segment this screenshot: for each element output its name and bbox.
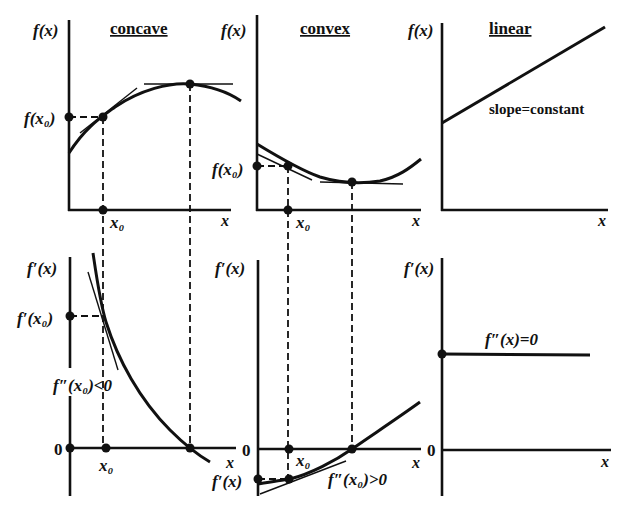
concave-peak-dot: [186, 80, 195, 89]
linear-top-ylabel: f(x): [408, 21, 433, 40]
convex-bottom-point-dot: [285, 475, 294, 484]
convex-fpx0-dot: [254, 475, 263, 484]
concave-bottom-fpx0-label: f′(x₀): [17, 309, 53, 328]
concave-title: concave: [110, 19, 168, 38]
concave-x0-dot: [99, 206, 108, 215]
convex-title: convex: [300, 19, 351, 38]
linear-slope-annotation: slope=constant: [489, 101, 584, 117]
concave-bottom-panel: f′(x) f′(x₀) f″(x₀)<0 0 x₀ x: [17, 253, 236, 496]
concave-root-dot: [186, 444, 195, 453]
linear-top-xlabel: x: [597, 212, 606, 229]
convex-fx0-dot: [253, 162, 262, 171]
linear-bottom-ylabel: f′(x): [404, 259, 434, 278]
convex-bottom-x0-dot: [285, 445, 294, 454]
concave-second-derivative-annotation: f″(x₀)<0: [53, 376, 112, 395]
concave-derivative-curve: [93, 253, 210, 462]
concave-zero-dot: [66, 444, 75, 453]
convex-bottom-ylabel: f′(x): [215, 259, 245, 278]
convex-top-x0-label: x₀: [295, 213, 311, 232]
concave-bottom-x0-dot: [102, 444, 111, 453]
convex-bottom-xlabel: x: [411, 454, 420, 471]
linear-top-panel: f(x) linear slope=constant x: [408, 19, 608, 229]
linear-second-derivative-annotation: f″(x)=0: [485, 330, 539, 349]
linear-bottom-zero-label: 0: [427, 441, 436, 460]
concave-bottom-xlabel: x: [225, 454, 234, 471]
convex-min-dot: [348, 178, 357, 187]
calculus-diagram: f(x) concave f(x₀) x₀ x f(x) convex f(x₀…: [0, 0, 626, 508]
concave-fpx0-dot: [66, 312, 75, 321]
convex-second-derivative-annotation: f″(x₀)>0: [328, 470, 387, 489]
convex-bottom-panel: f′(x) 0 f′(x) x₀ f″(x₀)>0 x: [212, 259, 421, 496]
concave-top-fx0-label: f(x₀): [24, 109, 55, 128]
concave-point-dot: [99, 113, 108, 122]
concave-bottom-zero-label: 0: [54, 440, 63, 459]
convex-top-fx0-label: f(x₀): [212, 160, 243, 179]
convex-root-dot: [348, 445, 357, 454]
convex-bottom-zero-label: 0: [242, 441, 251, 460]
convex-point-dot: [284, 162, 293, 171]
convex-top-panel: f(x) convex f(x₀) x₀ x: [212, 15, 421, 479]
linear-derivative-dot: [438, 350, 447, 359]
linear-title: linear: [489, 19, 532, 38]
linear-derivative-line: [442, 354, 590, 355]
concave-fx0-dot: [65, 113, 74, 122]
concave-top-x0-label: x₀: [109, 213, 125, 232]
concave-tangent-x0: [80, 88, 137, 133]
concave-curve: [69, 84, 241, 153]
concave-top-xlabel: x: [220, 212, 229, 229]
convex-top-xlabel: x: [411, 212, 420, 229]
concave-bottom-ylabel: f′(x): [27, 259, 57, 278]
concave-bottom-x0-label: x₀: [98, 456, 114, 475]
convex-tangent-min: [320, 182, 403, 184]
convex-bottom-x0-label: x₀: [295, 451, 311, 470]
convex-curve: [257, 144, 421, 183]
concave-top-ylabel: f(x): [33, 21, 58, 40]
convex-bottom-fpx-label: f′(x): [212, 472, 242, 491]
convex-top-ylabel: f(x): [221, 21, 246, 40]
convex-x0-dot: [284, 206, 293, 215]
linear-bottom-panel: f′(x) f″(x)=0 0 x: [404, 258, 611, 496]
linear-bottom-xlabel: x: [600, 453, 609, 470]
